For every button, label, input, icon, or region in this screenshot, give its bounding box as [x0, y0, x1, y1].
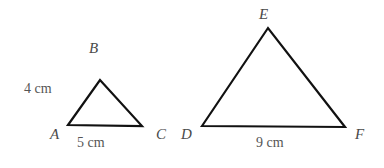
vertex-label-d: D: [181, 127, 192, 142]
vertex-label-a: A: [50, 127, 59, 142]
vertex-label-e: E: [259, 7, 268, 22]
vertex-label-c: C: [156, 127, 166, 142]
vertex-label-b: B: [89, 41, 98, 56]
vertex-label-f: F: [355, 127, 364, 142]
triangle-def-shape: [202, 28, 345, 127]
side-length-ac: 5 cm: [77, 136, 105, 150]
geometry-figure-canvas: A B C D E F 4 cm 5 cm 9 cm: [0, 0, 384, 168]
triangles-drawing: [0, 0, 384, 168]
side-length-df: 9 cm: [256, 136, 284, 150]
side-length-ab: 4 cm: [24, 82, 52, 96]
triangle-abc-shape: [68, 80, 142, 126]
